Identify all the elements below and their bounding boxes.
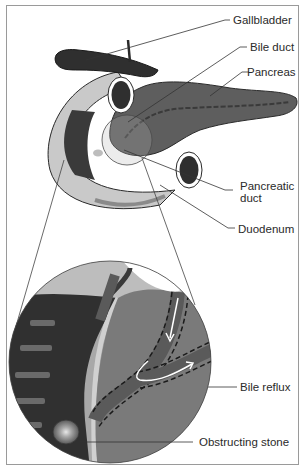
gallbladder [55,40,158,77]
zoomed-view [0,255,230,470]
label-bile-duct: Bile duct [250,41,295,53]
magnified-region-marker [102,115,152,165]
label-bile-reflux: Bile reflux [240,381,291,393]
duodenum-upper-opening [108,77,134,113]
obstructing-stone [53,420,79,444]
stone-small [93,150,103,157]
gallbladder-leader [86,20,230,60]
label-gallbladder: Gallbladder [233,14,292,26]
label-pancreatic-duct-1: Pancreatic [240,180,295,192]
label-obstructing-stone: Obstructing stone [199,436,289,448]
label-duodenum: Duodenum [238,223,294,235]
duodenum-lower-opening [176,152,202,188]
pancreas-anatomy-diagram: Gallbladder Bile duct Pancreas Pancreati… [0,0,306,473]
label-pancreatic-duct-2: duct [240,192,263,204]
label-pancreas: Pancreas [247,66,296,78]
